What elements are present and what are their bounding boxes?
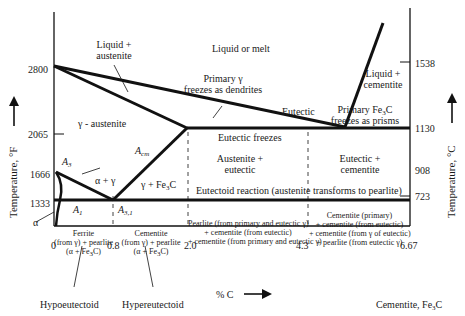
tick-2065: 2065 [28,129,48,140]
tick-908: 908 [415,165,430,176]
tick-1538: 1538 [415,58,435,69]
xtick-4.3: 4.3 [296,240,309,251]
label-liquid-cementite: Liquid + cementite [358,68,408,90]
tick-1333: 1333 [30,198,50,209]
label-alpha: α [33,217,38,228]
label-pearlite-region: Pearlite (from primary and eutectic γ) +… [188,219,308,246]
label-eutectic: Eutectic [282,106,315,117]
label-cementite-primary-region: Cementite (primary) + cementite (from eu… [309,211,410,247]
y-axis-label-left: Temperature, °F [8,147,19,218]
label-ferrite-pearlite: Ferrite (from γ) + pearlite (α + Fe3C) [54,229,113,256]
label-hypoeutectoid: Hypoeutectoid [40,299,99,310]
x-axis-label: % C [216,289,234,300]
label-cementite-pearlite: Cementite (from γ) + pearlite (α + Fe3C) [114,229,188,256]
label-alpha-gamma: α + γ [95,175,115,186]
tick-2800: 2800 [28,64,48,75]
label-acm: Acm [135,145,149,156]
label-hypereutectoid: Hypereutectoid [122,299,184,310]
xtick-2.0: 2.0 [184,240,197,251]
label-a3: A3 [62,156,72,167]
xtick-6.67: 6.67 [400,240,418,251]
label-eutectic-freezes: Eutectic freezes [218,132,282,143]
label-primary-fe3c: Primary Fe3C freezes as prisms [326,104,404,126]
label-a31: A3,1 [118,204,133,215]
tick-1666: 1666 [30,169,50,180]
label-gamma-austenite: γ - austenite [78,118,126,129]
label-eutectic-cementite: Eutectic + cementite [330,153,390,175]
tick-723: 723 [415,191,430,202]
label-eutectoid-reaction: Eutectoid reaction (austenite transforms… [196,185,402,196]
label-liquid-melt: Liquid or melt [212,43,270,54]
xtick-0.8: 0.8 [107,240,120,251]
tick-1130: 1130 [415,123,435,134]
label-gamma-fe3c: γ + Fe3C [141,179,176,190]
label-liquid-austenite: Liquid + austenite [90,39,138,61]
label-a1: A1 [73,204,83,215]
label-primary-gamma: Primary γ freezes as dendrites [183,73,263,95]
xtick-0: 0 [51,240,56,251]
y-axis-label-right: Temperature, °C [446,145,457,218]
label-austenite-eutectic: Austenite + eutectic [205,153,275,175]
label-cementite-fe3c: Cementite, Fe3C [376,299,442,310]
